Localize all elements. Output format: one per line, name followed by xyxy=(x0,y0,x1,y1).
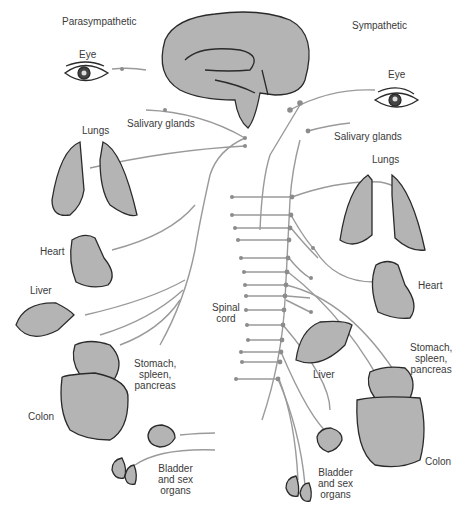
lungs-left-organ xyxy=(52,142,84,215)
label-lungs-left: Lungs xyxy=(82,125,109,136)
label-salivary-left: Salivary glands xyxy=(127,118,195,129)
ganglion-nodes xyxy=(120,67,315,381)
bladder-right-organ xyxy=(317,428,342,452)
nerve-salivary-right xyxy=(308,123,350,131)
eye-right-organ xyxy=(375,88,418,107)
nerve-liver-right xyxy=(287,296,310,298)
sex-organs-right-organ xyxy=(286,476,299,496)
colon-right-organ xyxy=(357,397,424,467)
label-eye-right: Eye xyxy=(388,69,405,80)
label-heart-right: Heart xyxy=(418,280,442,291)
heart-left-organ xyxy=(71,235,113,286)
label-bladder-right: Bladder and sex organs xyxy=(318,467,353,500)
nerve-eye-left xyxy=(112,68,146,70)
label-colon-left: Colon xyxy=(28,411,54,422)
brain xyxy=(162,12,309,128)
nerve-lungs-right xyxy=(292,182,405,200)
label-eye-left: Eye xyxy=(79,49,96,60)
lungs-right-organ xyxy=(340,175,372,244)
eye-left-organ xyxy=(65,62,108,81)
colon-left-organ xyxy=(61,373,128,440)
liver-right-organ xyxy=(296,321,352,362)
label-liver-left: Liver xyxy=(30,285,52,296)
sex-organs-left-organ xyxy=(112,458,126,478)
title-parasympathetic: Parasympathetic xyxy=(62,16,136,27)
nerve-bladder-left xyxy=(180,433,215,435)
label-colon-right: Colon xyxy=(425,456,451,467)
spinal-cord xyxy=(262,140,300,420)
bladder-left-organ xyxy=(148,425,175,447)
heart-right-organ xyxy=(372,262,414,319)
label-heart-left: Heart xyxy=(40,246,64,257)
nerve-bladder-right xyxy=(281,352,330,435)
label-lungs-right: Lungs xyxy=(372,154,399,165)
label-spinal-cord: Spinal cord xyxy=(212,302,240,324)
title-sympathetic: Sympathetic xyxy=(352,20,407,31)
nerve-eye-right xyxy=(290,90,375,110)
label-bladder-left: Bladder and sex organs xyxy=(158,463,193,496)
organs xyxy=(16,12,425,501)
liver-left-organ xyxy=(16,303,74,336)
label-stomach-right: Stomach, spleen, pancreas xyxy=(410,342,452,375)
label-salivary-right: Salivary glands xyxy=(334,131,402,142)
label-liver-right: Liver xyxy=(313,369,335,380)
label-stomach-left: Stomach, spleen, pancreas xyxy=(134,358,176,391)
